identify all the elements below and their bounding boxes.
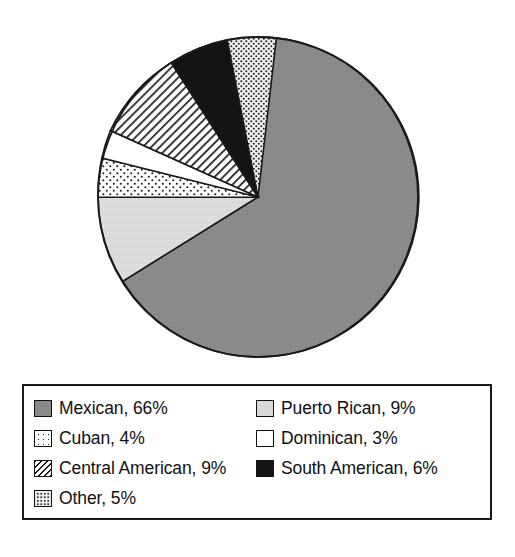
legend-label-south-american: South American, 6%	[281, 459, 438, 478]
legend-item-central-american[interactable]: Central American, 9%	[34, 453, 256, 483]
legend-label-central-american: Central American, 9%	[59, 459, 226, 478]
legend-item-puerto-rican[interactable]: Puerto Rican, 9%	[256, 393, 486, 423]
legend-swatch-south-american	[256, 460, 274, 477]
pie-chart-svg	[0, 0, 515, 378]
legend-swatch-central-american	[34, 460, 52, 477]
legend-item-mexican[interactable]: Mexican, 66%	[34, 393, 256, 423]
legend-item-dominican[interactable]: Dominican, 3%	[256, 423, 486, 453]
legend-swatch-other	[34, 490, 52, 507]
legend-label-cuban: Cuban, 4%	[59, 429, 145, 448]
legend-grid: Mexican, 66% Puerto Rican, 9% Cuban, 4% …	[34, 393, 486, 513]
legend-label-mexican: Mexican, 66%	[59, 399, 168, 418]
legend-item-south-american[interactable]: South American, 6%	[256, 453, 486, 483]
legend-swatch-cuban	[34, 430, 52, 447]
legend-label-puerto-rican: Puerto Rican, 9%	[281, 399, 416, 418]
legend-item-other[interactable]: Other, 5%	[34, 483, 256, 513]
legend: Mexican, 66% Puerto Rican, 9% Cuban, 4% …	[22, 384, 492, 520]
legend-label-dominican: Dominican, 3%	[281, 429, 397, 448]
legend-item-cuban[interactable]: Cuban, 4%	[34, 423, 256, 453]
legend-swatch-dominican	[256, 430, 274, 447]
pie-chart-area	[0, 0, 515, 378]
legend-label-other: Other, 5%	[59, 489, 136, 508]
legend-swatch-mexican	[34, 400, 52, 417]
legend-swatch-puerto-rican	[256, 400, 274, 417]
